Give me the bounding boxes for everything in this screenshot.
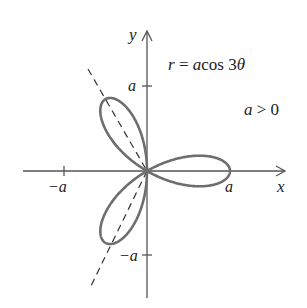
polar-rose-diagram: y x r = acos 3θ a > 0 −a a a −a — [0, 0, 307, 308]
dashed-symmetry-line — [88, 69, 147, 171]
dashed-symmetry-line-lower — [90, 171, 147, 288]
x-tick-label-pos: a — [225, 178, 233, 195]
y-tick-label-pos: a — [128, 77, 136, 94]
axes — [23, 31, 285, 298]
equation-label: r = acos 3θ — [168, 55, 245, 74]
y-axis-label: y — [127, 25, 137, 44]
x-axis-label: x — [276, 177, 285, 196]
x-tick-label-neg: −a — [48, 178, 67, 195]
y-tick-label-neg: −a — [119, 247, 138, 264]
condition-label: a > 0 — [244, 100, 279, 119]
